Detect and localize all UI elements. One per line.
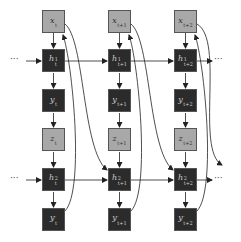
edge-x-to-h2-next	[65, 24, 107, 170]
ellipsis-right-layer1: ···	[214, 54, 223, 64]
ellipsis-right-layer2: ···	[214, 173, 223, 183]
node-z-t2: zt+2	[174, 128, 197, 151]
node-x-t: xt	[42, 10, 65, 33]
node-yprime-t1: y′t+1	[108, 208, 131, 231]
node-h2-t1: h2t+1	[108, 168, 131, 191]
node-h1-t2: h1t+2	[174, 49, 197, 72]
node-x-t2: xt+2	[174, 10, 197, 33]
node-y-t2: yt+2	[174, 89, 197, 112]
node-x-t1: xt+1	[108, 10, 131, 33]
node-yprime-t2: y′t+2	[174, 208, 197, 231]
ellipsis-left-layer2: ···	[10, 173, 19, 183]
node-h2-t2: h2t+2	[174, 168, 197, 191]
node-yprime-t: y′t	[42, 208, 65, 231]
node-z-t: zt	[42, 128, 65, 151]
ellipsis-left-layer1: ···	[10, 54, 19, 64]
node-h1-t1: h1t+1	[108, 49, 131, 72]
node-y-t1: yt+1	[108, 89, 131, 112]
rnn-diagram: ··· ··· ··· ··· xt h1t yt zt h2t y′t xt+…	[0, 0, 241, 242]
edges-layer	[0, 0, 241, 242]
node-z-t1: zt+1	[108, 128, 131, 151]
node-h1-t: h1t	[42, 49, 65, 72]
node-y-t: yt	[42, 89, 65, 112]
node-h2-t: h2t	[42, 168, 65, 191]
